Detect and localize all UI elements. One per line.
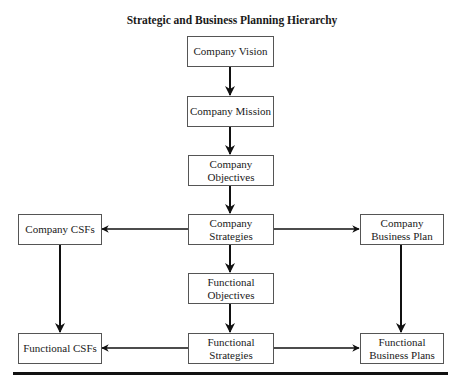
node-company-mission: Company Mission — [187, 96, 274, 127]
node-company-vision: Company Vision — [187, 36, 274, 67]
node-functional-business-plans: Functional Business Plans — [360, 333, 444, 364]
node-company-csfs: Company CSFs — [18, 214, 102, 245]
node-functional-csfs: Functional CSFs — [18, 333, 102, 364]
node-functional-objectives: Functional Objectives — [188, 273, 274, 304]
node-company-strategies: Company Strategies — [188, 214, 274, 245]
node-company-business-plan: Company Business Plan — [360, 214, 444, 245]
node-company-objectives: Company Objectives — [188, 155, 274, 186]
bottom-rule — [13, 372, 448, 375]
node-functional-strategies: Functional Strategies — [188, 333, 274, 364]
